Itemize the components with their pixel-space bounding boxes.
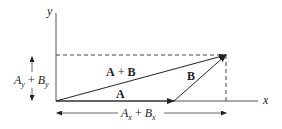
vector-sum-label: A + B bbox=[106, 65, 135, 79]
vector-sum-label-plus: + bbox=[115, 65, 128, 79]
y-axis-label: y bbox=[46, 4, 53, 18]
y-component-label: Ay + By bbox=[13, 73, 49, 89]
vector-b-label: B bbox=[187, 69, 195, 83]
vector-a-label: A bbox=[116, 87, 125, 101]
x-axis-label: x bbox=[262, 93, 269, 107]
vector-addition-diagram: y x A B A + B Ax + Bx Ay + By bbox=[0, 0, 282, 129]
x-component-label: Ax + Bx bbox=[120, 106, 156, 122]
vector-sum-label-a: A bbox=[106, 65, 115, 79]
vector-sum-label-b: B bbox=[127, 65, 135, 79]
